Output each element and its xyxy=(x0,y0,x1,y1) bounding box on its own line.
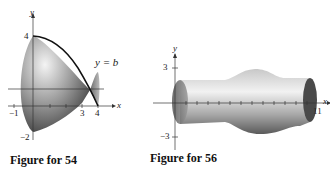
figure-54: y 4 −2 −1 3 4 x y = b Figure for 54 xyxy=(0,0,160,175)
y-axis-label: y xyxy=(173,43,177,53)
x-axis-label: x xyxy=(117,100,121,110)
caption-56: Figure for 56 xyxy=(150,151,217,166)
x-axis-label: x xyxy=(323,96,327,106)
y-tick-4: 4 xyxy=(24,31,29,41)
x-tick-3: 3 xyxy=(80,108,85,118)
y-tick-3: 3 xyxy=(163,62,168,72)
solid-of-revolution-54 xyxy=(0,0,160,175)
x-tick-4: 4 xyxy=(95,108,100,118)
y-tick-neg2: −2 xyxy=(20,132,30,142)
y-axis-label: y xyxy=(30,7,34,17)
solid-of-revolution-56 xyxy=(150,0,330,175)
caption-54: Figure for 54 xyxy=(10,153,77,168)
x-tick-neg1: −1 xyxy=(9,108,19,118)
figure-56: y 3 −3 11 x Figure for 56 xyxy=(150,0,330,175)
x-tick-11: 11 xyxy=(313,106,322,116)
annotation-y-equals-b: y = b xyxy=(95,56,118,68)
y-tick-neg3: −3 xyxy=(160,131,170,141)
